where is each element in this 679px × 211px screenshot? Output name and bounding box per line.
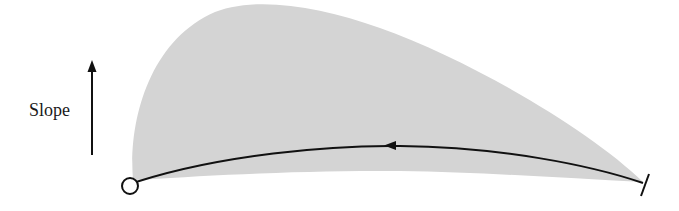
upward-arrow-icon — [88, 60, 97, 155]
open-circle-icon — [122, 178, 138, 194]
diagram-canvas — [0, 0, 679, 211]
end-tick-icon — [641, 174, 649, 196]
shaded-region — [132, 4, 643, 182]
